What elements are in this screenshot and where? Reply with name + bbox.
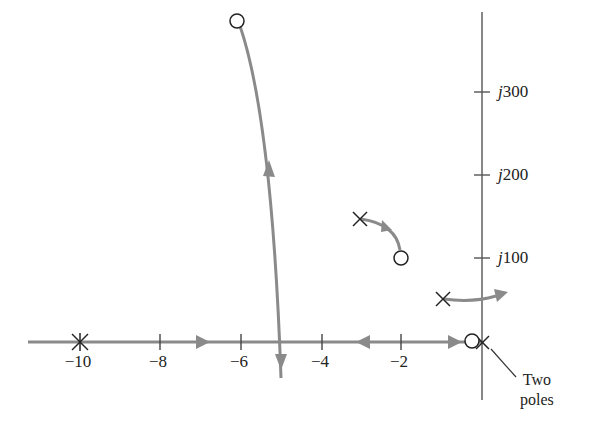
- locus-branch-to-rhp: [444, 296, 496, 300]
- arrow-up: [263, 160, 275, 177]
- y-tick-label: j200: [498, 165, 528, 185]
- locus-branch-pole-to-zero: [361, 219, 400, 250]
- y-tick-label: j100: [498, 248, 528, 268]
- y-tick-label: j300: [498, 82, 528, 102]
- x-tick-label: −10: [65, 352, 92, 372]
- zero-icon: [230, 14, 244, 28]
- locus-branch-vertical: [240, 26, 281, 378]
- arrow-down: [275, 354, 287, 370]
- zero-icon: [465, 334, 479, 348]
- x-tick-label: −6: [230, 352, 248, 372]
- x-tick-label: −4: [311, 352, 329, 372]
- zero-icon: [394, 251, 408, 265]
- x-tick-label: −2: [390, 352, 408, 372]
- annotation-leader: [491, 349, 516, 377]
- x-tick-label: −8: [149, 352, 167, 372]
- two-poles-annotation: Two poles: [520, 370, 554, 410]
